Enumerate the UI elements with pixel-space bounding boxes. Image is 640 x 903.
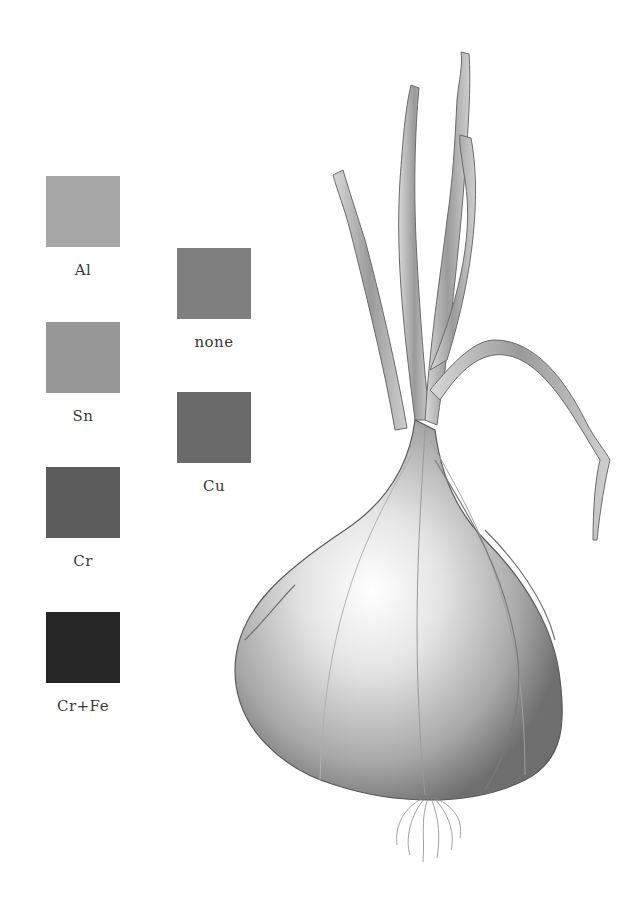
color-swatch-al <box>46 176 120 247</box>
swatch-label-al: Al <box>46 261 120 279</box>
swatch-label-crfe: Cr+Fe <box>46 697 120 715</box>
swatch-crfe: Cr+Fe <box>46 612 120 715</box>
color-swatch-cr <box>46 467 120 538</box>
onion-roots <box>397 798 461 862</box>
color-swatch-crfe <box>46 612 120 683</box>
swatch-cr: Cr <box>46 467 120 570</box>
onion-leaves <box>333 52 610 540</box>
swatch-label-cr: Cr <box>46 552 120 570</box>
swatch-label-sn: Sn <box>46 407 120 425</box>
swatch-al: Al <box>46 176 120 279</box>
swatch-sn: Sn <box>46 322 120 425</box>
onion-illustration <box>225 40 635 870</box>
onion-bulb <box>235 420 562 800</box>
color-swatch-sn <box>46 322 120 393</box>
